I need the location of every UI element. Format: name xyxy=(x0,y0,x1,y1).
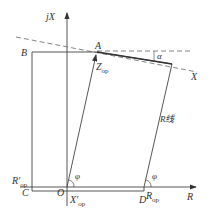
impedance-diagram: jX R A B C D O Zop X α R线 φ φ R′op Rop X… xyxy=(0,0,211,214)
point-b-label: B xyxy=(21,47,27,58)
r-op-right-label: Rop xyxy=(145,190,160,204)
phi-arc-origin xyxy=(69,180,74,187)
phi-right-label: φ xyxy=(152,171,157,181)
phi-origin-label: φ xyxy=(75,171,80,181)
phi-arc-right xyxy=(146,180,151,187)
jx-axis-label: jX xyxy=(44,11,56,22)
x-op-label: X′op xyxy=(69,194,86,208)
alpha-label: α xyxy=(157,51,162,61)
point-a-label: A xyxy=(94,40,102,51)
r-line-label: R线 xyxy=(159,114,175,124)
origin-label: O xyxy=(57,187,64,198)
zop-label: Zop xyxy=(96,61,109,75)
r-axis-label: R xyxy=(186,191,193,202)
zop-vector xyxy=(67,55,96,187)
x-line-label: X xyxy=(190,71,198,82)
r-op-left-label: R′op xyxy=(11,175,28,189)
